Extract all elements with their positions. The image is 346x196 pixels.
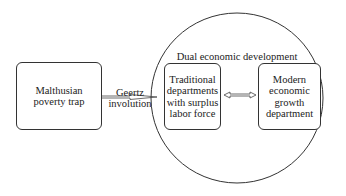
modern-box: Modern economic growth department: [258, 63, 321, 130]
traditional-box: Traditional departments with surplus lab…: [164, 63, 221, 130]
double-arrow-icon: [224, 92, 256, 98]
modern-label: Modern economic growth department: [266, 74, 313, 120]
malthusian-box: Malthusian poverty trap: [16, 62, 102, 130]
container-title: Dual economic development: [170, 39, 304, 62]
traditional-label: Traditional departments with surplus lab…: [167, 74, 219, 120]
container-title-text: Dual economic development: [177, 51, 298, 62]
geertz-label: Geertz involution: [104, 75, 156, 110]
malthusian-label: Malthusian poverty trap: [33, 85, 84, 108]
geertz-label-text: Geertz involution: [108, 87, 151, 110]
diagram-canvas: Dual economic development Malthusian pov…: [0, 0, 346, 196]
